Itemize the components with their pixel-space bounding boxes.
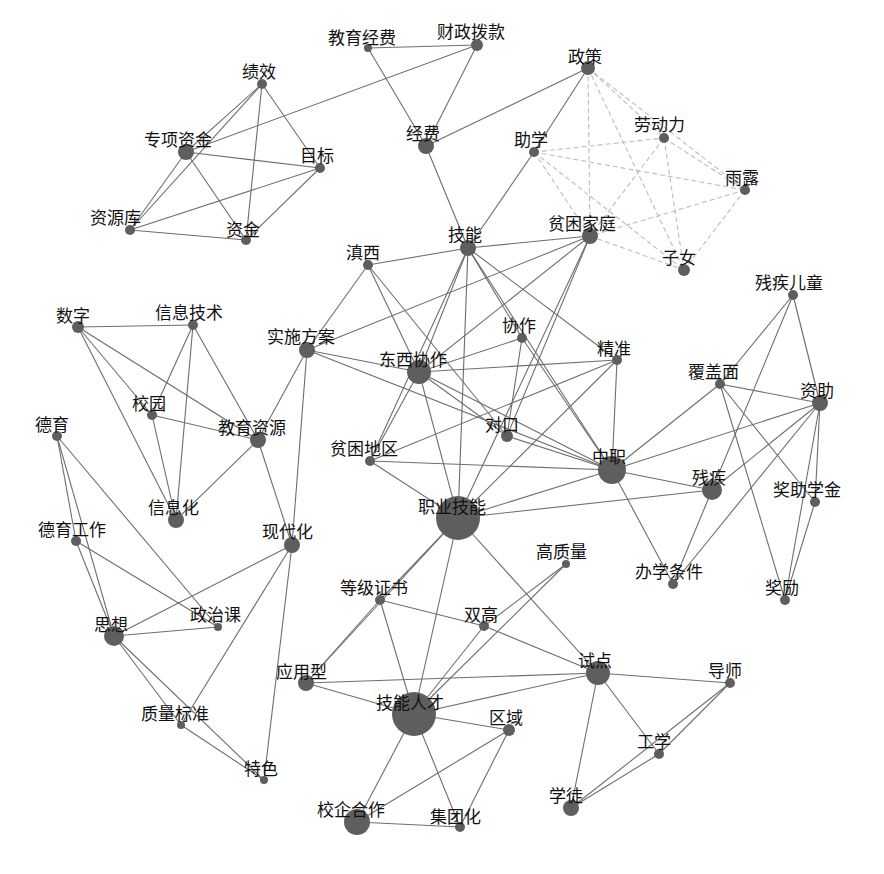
graph-node: 经费: [406, 124, 440, 154]
graph-node: 思想: [94, 615, 128, 646]
graph-node: 雨露: [725, 168, 759, 195]
node-label: 等级证书: [340, 578, 408, 598]
edge: [712, 403, 820, 490]
node-label: 集团化: [430, 807, 481, 827]
graph-node: 东西协作: [379, 350, 447, 384]
node-label: 职业技能: [418, 497, 486, 517]
graph-node: 数字: [56, 306, 90, 333]
graph-node: 助学: [514, 130, 548, 157]
node-label: 工学: [637, 732, 671, 752]
graph-node: 滇西: [346, 243, 380, 270]
node-label: 协作: [502, 316, 536, 336]
node-label: 滇西: [346, 243, 380, 263]
node-label: 教育经费: [328, 28, 396, 48]
node-label: 学徒: [549, 786, 583, 806]
graph-node: 残疾儿童: [755, 273, 823, 300]
graph-node: 教育经费: [328, 28, 396, 52]
node-layer: 教育经费财政拨款政策绩效专项资金目标资源库资金经费助学劳动力雨露技能贫困家庭子女…: [35, 22, 841, 835]
graph-node: 职业技能: [418, 496, 486, 540]
edge: [306, 673, 598, 683]
edge: [468, 236, 590, 248]
graph-node: 政治课: [190, 605, 241, 631]
node-label: 助学: [514, 130, 548, 150]
node-label: 财政拨款: [437, 22, 505, 42]
node-label: 技能人才: [376, 693, 444, 713]
node-label: 双高: [464, 605, 498, 625]
edge: [458, 490, 712, 518]
node-label: 区域: [489, 708, 523, 728]
graph-node: 双高: [464, 605, 498, 631]
node-label: 教育资源: [218, 418, 286, 438]
node-label: 校园: [132, 394, 166, 414]
graph-node: 残疾: [692, 468, 726, 500]
edge: [370, 360, 617, 461]
edge: [414, 564, 566, 714]
node-label: 政治课: [190, 605, 241, 625]
node-label: 中职: [592, 447, 626, 467]
edge: [246, 84, 262, 240]
node-label: 资助: [800, 381, 834, 401]
edge: [612, 384, 720, 470]
graph-node: 办学条件: [635, 562, 703, 589]
node-label: 试点: [578, 651, 612, 671]
graph-node: 集团化: [430, 807, 481, 832]
node-label: 专项资金: [144, 130, 212, 150]
edge: [571, 754, 659, 808]
graph-node: 校企合作: [317, 800, 385, 835]
graph-node: 区域: [489, 708, 523, 736]
edge: [588, 68, 590, 236]
node-label: 东西协作: [379, 350, 447, 370]
node-label: 德育: [35, 415, 69, 435]
graph-node: 覆盖面: [688, 362, 739, 389]
graph-node: 协作: [502, 316, 536, 343]
graph-node: 质量标准: [141, 704, 209, 729]
node-label: 德育工作: [38, 520, 106, 540]
node-label: 政策: [568, 47, 602, 67]
node-label: 覆盖面: [688, 362, 739, 382]
node-label: 数字: [56, 306, 90, 326]
node-label: 质量标准: [141, 704, 209, 724]
node-label: 贫困家庭: [548, 214, 616, 234]
node-label: 子女: [662, 248, 696, 268]
graph-node: 技能人才: [376, 692, 444, 736]
node-label: 办学条件: [635, 562, 703, 582]
graph-node: 奖助学金: [773, 480, 841, 507]
edge: [368, 248, 468, 265]
graph-node: 特色: [244, 759, 278, 784]
node-label: 资金: [226, 220, 260, 240]
graph-node: 学徒: [549, 786, 583, 816]
graph-node: 绩效: [242, 62, 276, 89]
edge: [78, 325, 193, 327]
graph-node: 高质量: [536, 542, 587, 568]
graph-node: 子女: [662, 248, 696, 276]
node-label: 校企合作: [317, 800, 385, 820]
edge: [370, 461, 612, 470]
node-label: 现代化: [262, 522, 313, 542]
node-label: 思想: [94, 615, 128, 635]
edge: [712, 295, 793, 490]
edge: [181, 545, 292, 725]
node-label: 残疾儿童: [755, 273, 823, 293]
node-label: 劳动力: [634, 115, 685, 135]
graph-node: 技能: [448, 225, 482, 256]
graph-node: 资源库: [90, 208, 141, 235]
node-label: 贫困地区: [330, 439, 398, 459]
node-label: 技能: [448, 225, 482, 245]
node-label: 目标: [300, 146, 334, 166]
graph-node: 工学: [637, 732, 671, 759]
edge: [292, 350, 307, 545]
keyword-network-graph: 教育经费财政拨款政策绩效专项资金目标资源库资金经费助学劳动力雨露技能贫困家庭子女…: [0, 0, 884, 874]
node-label: 高质量: [536, 542, 587, 562]
node-label: 精准: [597, 339, 631, 359]
graph-node: 等级证书: [340, 578, 408, 605]
edge: [458, 236, 590, 518]
node-label: 应用型: [276, 662, 327, 682]
graph-node: 专项资金: [144, 130, 212, 160]
edge: [468, 248, 617, 360]
node-label: 残疾: [692, 468, 726, 488]
graph-node: 资金: [226, 220, 260, 245]
graph-node: 中职: [592, 447, 626, 484]
node-label: 经费: [406, 124, 440, 144]
node-label: 奖励: [765, 578, 799, 598]
edge: [78, 327, 176, 520]
